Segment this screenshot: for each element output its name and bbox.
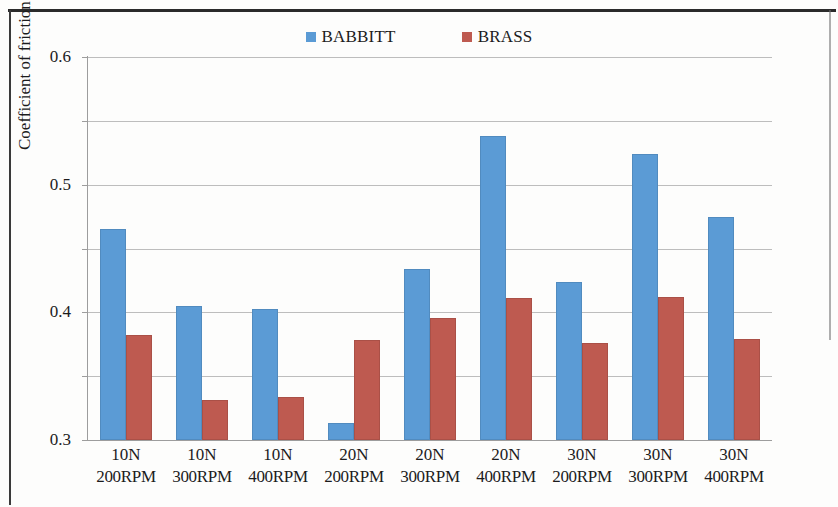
gridline bbox=[88, 440, 772, 441]
bar-group bbox=[392, 57, 468, 440]
x-axis-label-group: 10N400RPM bbox=[240, 444, 316, 488]
x-axis-label-load: 10N bbox=[240, 444, 316, 466]
x-axis-label-speed: 300RPM bbox=[392, 466, 468, 488]
bar-brass bbox=[354, 340, 380, 440]
bar-babbitt bbox=[328, 423, 354, 440]
legend-item-brass: BRASS bbox=[462, 27, 533, 47]
chart-page: BABBITT BRASS Coefficient of friction 0.… bbox=[0, 0, 838, 507]
x-axis-label-group: 20N300RPM bbox=[392, 444, 468, 488]
legend-label-brass: BRASS bbox=[478, 27, 533, 47]
bar-brass bbox=[430, 318, 456, 440]
x-axis-labels: 10N200RPM10N300RPM10N400RPM20N200RPM20N3… bbox=[88, 444, 772, 488]
x-axis-label-load: 30N bbox=[544, 444, 620, 466]
x-axis-label-speed: 400RPM bbox=[696, 466, 772, 488]
y-axis-tick-label: 0.6 bbox=[50, 47, 71, 67]
x-axis-label-speed: 300RPM bbox=[620, 466, 696, 488]
bar-group bbox=[316, 57, 392, 440]
x-axis-label-load: 20N bbox=[468, 444, 544, 466]
x-axis-label-group: 20N400RPM bbox=[468, 444, 544, 488]
bar-brass bbox=[202, 400, 228, 440]
bar-brass bbox=[506, 298, 532, 440]
bar-group bbox=[88, 57, 164, 440]
x-axis-label-group: 10N300RPM bbox=[164, 444, 240, 488]
x-axis-label-speed: 200RPM bbox=[88, 466, 164, 488]
y-axis-tick-label: 0.3 bbox=[50, 430, 71, 450]
x-axis-label-speed: 200RPM bbox=[316, 466, 392, 488]
bar-babbitt bbox=[632, 154, 658, 440]
legend-swatch-brass bbox=[462, 32, 472, 42]
bar-group bbox=[696, 57, 772, 440]
page-border-left bbox=[9, 10, 11, 505]
bar-group bbox=[240, 57, 316, 440]
bar-series-container bbox=[88, 57, 772, 440]
x-axis-label-load: 30N bbox=[620, 444, 696, 466]
x-axis-label-speed: 200RPM bbox=[544, 466, 620, 488]
x-axis-label-load: 10N bbox=[164, 444, 240, 466]
x-axis-label-speed: 400RPM bbox=[468, 466, 544, 488]
legend-label-babbitt: BABBITT bbox=[322, 27, 396, 47]
x-axis-label-speed: 400RPM bbox=[240, 466, 316, 488]
bar-brass bbox=[658, 297, 684, 440]
x-axis-label-speed: 300RPM bbox=[164, 466, 240, 488]
bar-babbitt bbox=[708, 217, 734, 440]
y-axis-title: Coefficient of friction bbox=[15, 1, 35, 150]
bar-babbitt bbox=[100, 229, 126, 440]
x-axis-label-load: 20N bbox=[392, 444, 468, 466]
bar-brass bbox=[582, 343, 608, 440]
bar-group bbox=[544, 57, 620, 440]
bar-brass bbox=[126, 335, 152, 440]
x-axis-label-group: 20N200RPM bbox=[316, 444, 392, 488]
y-axis-tick-label: 0.5 bbox=[50, 175, 71, 195]
bar-babbitt bbox=[252, 309, 278, 440]
legend-item-babbitt: BABBITT bbox=[306, 27, 396, 47]
x-axis-label-load: 20N bbox=[316, 444, 392, 466]
bar-babbitt bbox=[404, 269, 430, 440]
chart-legend: BABBITT BRASS bbox=[0, 27, 838, 47]
x-axis-label-group: 10N200RPM bbox=[88, 444, 164, 488]
bar-group bbox=[468, 57, 544, 440]
bar-group bbox=[620, 57, 696, 440]
y-axis-tick: 0 bbox=[82, 440, 88, 441]
x-axis-label-group: 30N300RPM bbox=[620, 444, 696, 488]
x-axis-label-load: 10N bbox=[88, 444, 164, 466]
bar-babbitt bbox=[480, 136, 506, 440]
x-axis-label-load: 30N bbox=[696, 444, 772, 466]
x-axis-label-group: 30N400RPM bbox=[696, 444, 772, 488]
bar-brass bbox=[734, 339, 760, 440]
x-axis-label-group: 30N200RPM bbox=[544, 444, 620, 488]
y-axis-tick-label: 0.4 bbox=[50, 302, 71, 322]
bar-babbitt bbox=[176, 306, 202, 440]
legend-swatch-babbitt bbox=[306, 32, 316, 42]
bar-babbitt bbox=[556, 282, 582, 440]
page-border-top bbox=[8, 9, 836, 12]
page-border-right bbox=[829, 10, 831, 340]
bar-brass bbox=[278, 397, 304, 440]
chart-plot-area: 0.60.50.40.30.20.10 bbox=[88, 57, 772, 440]
bar-group bbox=[164, 57, 240, 440]
